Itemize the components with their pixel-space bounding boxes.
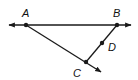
point-c	[84, 60, 88, 64]
label-d: D	[108, 41, 116, 53]
label-b: B	[113, 7, 120, 19]
geometry-diagram: A B D C	[0, 0, 138, 80]
point-b	[115, 23, 119, 27]
point-d	[100, 41, 104, 45]
label-c: C	[73, 67, 81, 79]
point-a	[24, 23, 28, 27]
label-a: A	[21, 7, 29, 19]
ray-ac	[26, 25, 101, 72]
diagram-canvas: A B D C	[0, 0, 138, 80]
